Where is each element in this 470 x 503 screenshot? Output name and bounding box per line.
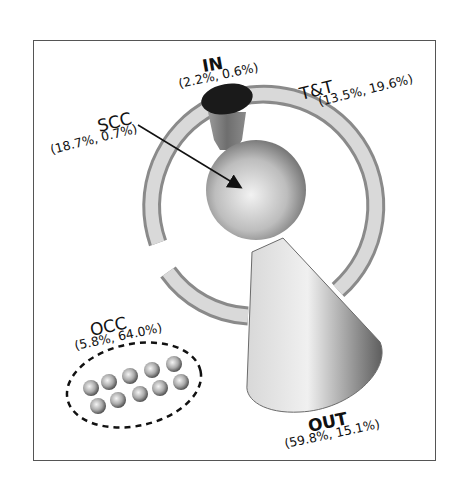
scc-sphere [206,140,306,240]
